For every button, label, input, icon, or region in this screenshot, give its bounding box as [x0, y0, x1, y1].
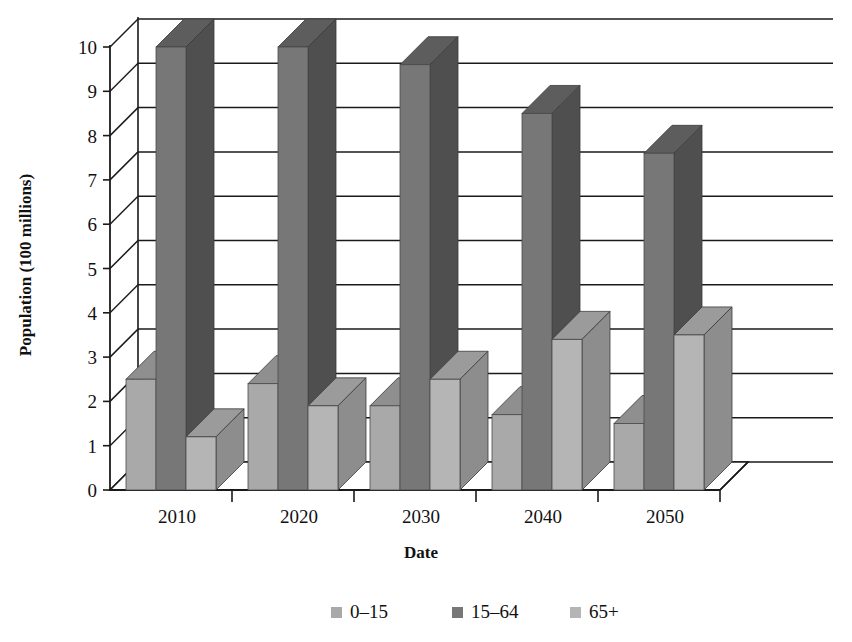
- y-tick-label: 4: [88, 303, 98, 324]
- bar-front-face: [400, 65, 430, 490]
- population-bar-chart: 012345678910 20102020203020402050 Popula…: [0, 0, 852, 642]
- y-tick-label: 9: [88, 81, 98, 102]
- bar-front-face: [492, 415, 522, 490]
- bar-front-face: [278, 47, 308, 490]
- bar-front-face: [370, 406, 400, 490]
- y-tick-label: 1: [88, 436, 98, 457]
- legend-swatch-2: [452, 607, 463, 618]
- x-tick-label: 2020: [280, 506, 318, 527]
- x-axis-title: Date: [404, 543, 438, 562]
- y-tick-label: 2: [88, 391, 98, 412]
- x-tick-label: 2040: [524, 506, 562, 527]
- bar-front-face: [248, 384, 278, 490]
- x-tick-label: 2050: [646, 506, 684, 527]
- bar-side-face: [704, 307, 732, 490]
- y-tick-label: 7: [88, 170, 98, 191]
- bar-front-face: [674, 335, 704, 490]
- legend-swatch-1: [331, 607, 342, 618]
- x-tick-label: 2030: [402, 506, 440, 527]
- y-tick-label: 8: [88, 126, 98, 147]
- bar-front-face: [552, 339, 582, 490]
- bar-front-face: [156, 47, 186, 490]
- chart-container: 012345678910 20102020203020402050 Popula…: [0, 0, 852, 642]
- x-tick-label: 2010: [158, 506, 196, 527]
- bar-front-face: [522, 113, 552, 490]
- bar-front-face: [430, 379, 460, 490]
- bar-front-face: [644, 153, 674, 490]
- bar-2040-65+: [552, 311, 610, 490]
- bar-side-face: [582, 311, 610, 490]
- legend-label-3: 65+: [589, 601, 619, 622]
- legend-swatch-3: [570, 607, 581, 618]
- y-tick-label: 3: [88, 347, 98, 368]
- bar-2030-65+: [430, 351, 488, 490]
- bar-front-face: [186, 437, 216, 490]
- y-tick-label: 0: [88, 480, 98, 501]
- y-tick-label: 5: [88, 259, 98, 280]
- legend-label-1: 0–15: [350, 601, 388, 622]
- legend-label-2: 15–64: [471, 601, 519, 622]
- bar-front-face: [308, 406, 338, 490]
- bar-front-face: [614, 424, 644, 490]
- bar-front-face: [126, 379, 156, 490]
- y-axis-title: Population (100 millions): [16, 174, 35, 356]
- bar-2050-65+: [674, 307, 732, 490]
- y-tick-label: 6: [88, 214, 98, 235]
- y-tick-label: 10: [78, 37, 97, 58]
